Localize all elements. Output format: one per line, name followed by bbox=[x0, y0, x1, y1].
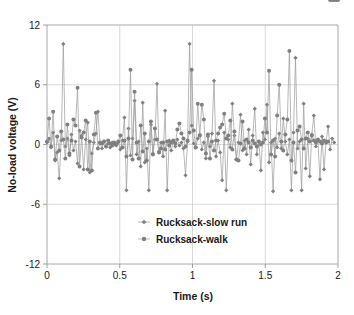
data-point-marker bbox=[300, 188, 304, 192]
data-point-marker bbox=[141, 149, 145, 153]
data-point-marker bbox=[287, 49, 291, 53]
data-point-marker bbox=[247, 141, 251, 145]
data-point-marker bbox=[82, 167, 86, 171]
data-point-marker bbox=[255, 144, 259, 148]
data-point-marker bbox=[308, 174, 312, 178]
data-point-marker bbox=[61, 138, 65, 142]
data-point-marker bbox=[57, 148, 61, 152]
data-point-marker bbox=[118, 134, 122, 138]
y-tick-label: -6 bbox=[31, 199, 40, 210]
data-point-marker bbox=[104, 144, 108, 148]
data-point-marker bbox=[139, 124, 143, 128]
data-point-marker bbox=[279, 140, 283, 144]
data-point-marker bbox=[78, 164, 82, 168]
data-point-marker bbox=[222, 112, 226, 116]
data-point-marker bbox=[236, 158, 240, 162]
data-point-marker bbox=[306, 131, 310, 135]
data-point-marker bbox=[291, 130, 295, 134]
data-point-marker bbox=[220, 178, 224, 182]
data-point-marker bbox=[84, 119, 88, 123]
data-point-marker bbox=[326, 140, 330, 144]
data-point-marker bbox=[247, 127, 251, 131]
data-point-marker bbox=[200, 103, 204, 107]
data-point-marker bbox=[165, 140, 169, 144]
data-point-marker bbox=[190, 68, 194, 72]
data-point-marker bbox=[202, 118, 206, 122]
data-point-marker bbox=[296, 129, 300, 133]
data-point-marker bbox=[289, 158, 293, 162]
data-point-marker bbox=[133, 90, 137, 94]
data-point-marker bbox=[200, 147, 204, 151]
data-point-marker bbox=[65, 136, 69, 140]
data-point-marker bbox=[45, 140, 49, 144]
data-point-marker bbox=[312, 114, 316, 118]
data-point-marker bbox=[100, 146, 104, 150]
data-point-marker bbox=[285, 118, 289, 122]
data-point-marker bbox=[122, 139, 126, 143]
data-point-marker bbox=[92, 133, 96, 137]
data-point-marker bbox=[59, 130, 63, 134]
data-point-marker bbox=[281, 117, 285, 121]
data-point-marker bbox=[230, 147, 234, 151]
data-point-marker bbox=[265, 131, 269, 135]
data-point-marker bbox=[129, 68, 133, 72]
data-point-marker bbox=[326, 124, 330, 128]
data-point-marker bbox=[253, 107, 257, 111]
data-point-marker bbox=[291, 141, 295, 145]
y-axis-tick-labels: -12-60612 bbox=[26, 20, 41, 270]
data-point-marker bbox=[293, 56, 297, 60]
data-point-marker bbox=[53, 157, 57, 161]
data-point-marker bbox=[61, 42, 65, 46]
data-point-marker bbox=[310, 134, 314, 138]
data-point-marker bbox=[124, 154, 128, 158]
data-point-marker bbox=[289, 188, 293, 192]
data-point-marker bbox=[124, 188, 128, 192]
data-point-marker bbox=[73, 139, 77, 143]
legend-label-0: Rucksack-slow run bbox=[156, 217, 247, 228]
data-point-marker bbox=[243, 146, 247, 150]
data-point-marker bbox=[55, 135, 59, 139]
data-point-marker bbox=[126, 137, 130, 141]
chart-container: -12-60612 00.511.52 Rucksack-slow runRuc… bbox=[0, 0, 354, 315]
data-point-marker bbox=[137, 156, 141, 160]
data-point-marker bbox=[149, 120, 153, 124]
data-point-marker bbox=[228, 119, 232, 123]
data-point-marker bbox=[249, 162, 253, 166]
grid-lines bbox=[47, 25, 338, 264]
data-point-marker bbox=[261, 141, 265, 145]
data-point-marker bbox=[267, 160, 271, 164]
data-point-marker bbox=[142, 220, 147, 225]
data-point-marker bbox=[271, 189, 275, 193]
data-point-marker bbox=[92, 140, 96, 144]
data-point-marker bbox=[320, 134, 324, 138]
data-point-marker bbox=[212, 79, 216, 83]
data-point-marker bbox=[116, 140, 120, 144]
data-point-marker bbox=[245, 152, 249, 156]
x-axis-title: Time (s) bbox=[173, 290, 213, 302]
data-point-marker bbox=[65, 123, 69, 127]
data-point-marker bbox=[304, 166, 308, 170]
data-point-marker bbox=[159, 146, 163, 150]
data-point-marker bbox=[80, 136, 84, 140]
data-point-marker bbox=[300, 138, 304, 142]
data-point-marker bbox=[208, 156, 212, 160]
data-point-marker bbox=[142, 237, 146, 241]
data-point-marker bbox=[147, 188, 151, 192]
data-point-marker bbox=[141, 101, 145, 105]
data-point-marker bbox=[102, 140, 106, 144]
data-point-marker bbox=[271, 139, 275, 143]
series-polyline bbox=[47, 44, 334, 191]
data-point-marker bbox=[232, 130, 236, 134]
data-point-marker bbox=[120, 145, 124, 149]
data-point-marker bbox=[304, 137, 308, 141]
x-tick-label: 2 bbox=[335, 270, 341, 281]
data-point-marker bbox=[210, 131, 214, 135]
data-point-marker bbox=[187, 42, 191, 46]
data-point-marker bbox=[269, 152, 273, 156]
y-tick-label: 6 bbox=[34, 79, 40, 90]
data-point-marker bbox=[71, 148, 75, 152]
x-tick-label: 1.5 bbox=[258, 270, 272, 281]
data-point-marker bbox=[318, 177, 322, 181]
data-point-marker bbox=[212, 148, 216, 152]
y-tick-label: 0 bbox=[34, 139, 40, 150]
